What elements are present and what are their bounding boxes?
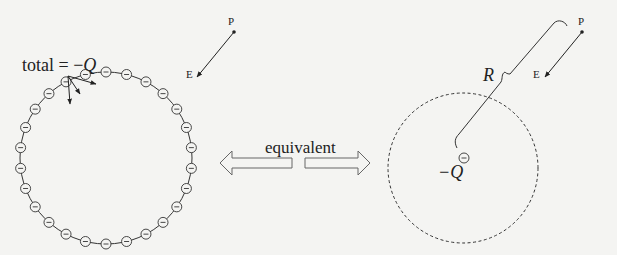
total-pointer-arrows	[68, 76, 96, 104]
distance-label: R	[483, 65, 494, 86]
charge-icon	[181, 183, 191, 193]
charge-icon	[16, 143, 26, 153]
total-charge-label: total = −Q	[22, 55, 96, 76]
charge-icon	[158, 89, 168, 99]
charge-icon	[101, 67, 111, 77]
charge-icon	[21, 183, 31, 193]
charge-icon	[172, 104, 182, 114]
left-field-vector	[197, 30, 236, 77]
charged-shell	[16, 67, 197, 249]
negative-charges	[16, 67, 197, 249]
equivalent-label: equivalent	[265, 138, 336, 158]
charge-icon	[80, 237, 90, 247]
left-field-label: E	[186, 68, 193, 80]
left-point-label: P	[228, 15, 234, 27]
charge-icon	[186, 163, 196, 173]
charge-icon	[141, 229, 151, 239]
charge-icon	[181, 123, 191, 133]
charge-icon	[158, 217, 168, 227]
charge-icon	[61, 229, 71, 239]
charge-icon	[172, 202, 182, 212]
charge-icon	[21, 123, 31, 133]
diagram-canvas	[0, 0, 617, 255]
point-charge-label: −Q	[438, 162, 463, 183]
charge-icon	[30, 202, 40, 212]
charge-icon	[44, 89, 54, 99]
right-field-vector	[545, 30, 584, 77]
right-field-label: E	[533, 68, 540, 80]
right-point-label: P	[578, 15, 584, 27]
charge-icon	[141, 77, 151, 87]
charge-icon	[101, 239, 111, 249]
charge-icon	[16, 163, 26, 173]
charge-icon	[122, 69, 132, 79]
charge-icon	[30, 104, 40, 114]
charge-icon	[122, 237, 132, 247]
charge-icon	[44, 217, 54, 227]
charge-icon	[186, 143, 196, 153]
distance-brace	[455, 21, 567, 148]
